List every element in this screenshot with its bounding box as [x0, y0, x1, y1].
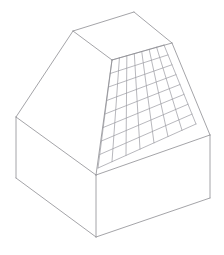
faces-layer	[16, 12, 210, 237]
isometric-house-drawing	[0, 0, 224, 255]
figure-canvas	[0, 0, 224, 255]
